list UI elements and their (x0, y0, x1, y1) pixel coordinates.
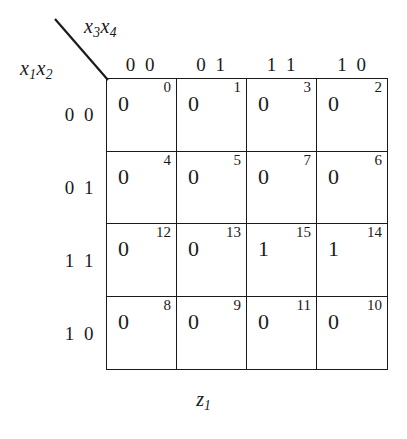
column-header-row: 0 0 0 1 1 1 1 0 (106, 52, 388, 78)
kmap-cell: 10 0 (317, 297, 387, 370)
column-header: 1 0 (318, 52, 389, 78)
kmap-cell: 12 0 (107, 224, 177, 297)
cell-value: 0 (118, 165, 129, 188)
minterm-index: 12 (156, 225, 171, 241)
cell-value: 0 (188, 165, 199, 188)
minterm-index: 3 (304, 80, 312, 96)
minterm-index: 10 (367, 298, 382, 314)
cell-value: 0 (258, 165, 269, 188)
column-axis-label: x3x4 (84, 16, 117, 39)
minterm-index: 14 (367, 225, 382, 241)
column-axis-var1: x (84, 15, 93, 37)
minterm-index: 4 (164, 153, 172, 169)
column-axis-var1-sub: 3 (93, 25, 100, 40)
cell-value: 0 (188, 92, 199, 115)
column-header: 0 0 (106, 52, 177, 78)
cell-value: 0 (258, 92, 269, 115)
column-axis-var2: x (100, 15, 109, 37)
minterm-index: 5 (234, 153, 242, 169)
minterm-index: 2 (375, 80, 383, 96)
kmap-cell: 0 0 (107, 79, 177, 152)
kmap-cell: 11 0 (247, 297, 317, 370)
cell-value: 0 (328, 92, 339, 115)
kmap-cell: 13 0 (177, 224, 247, 297)
minterm-index: 9 (234, 298, 242, 314)
karnaugh-map-figure: x3x4 x1x2 0 0 0 1 1 1 1 0 0 0 0 1 1 1 1 … (0, 0, 407, 439)
kmap-cell: 5 0 (177, 152, 247, 225)
kmap-cell: 3 0 (247, 79, 317, 152)
kmap-cell: 14 1 (317, 224, 387, 297)
minterm-index: 6 (375, 153, 383, 169)
minterm-index: 1 (234, 80, 242, 96)
column-axis-var2-sub: 4 (110, 25, 117, 40)
cell-value: 1 (328, 237, 339, 260)
column-header: 0 1 (177, 52, 248, 78)
row-header: 0 1 (26, 151, 102, 224)
minterm-index: 13 (226, 225, 241, 241)
kmap-cell: 15 1 (247, 224, 317, 297)
caption-subscript: 1 (204, 398, 211, 413)
minterm-index: 15 (296, 225, 311, 241)
row-header: 0 0 (26, 78, 102, 151)
kmap-cell: 6 0 (317, 152, 387, 225)
cell-value: 1 (258, 237, 269, 260)
minterm-index: 11 (297, 298, 311, 314)
minterm-index: 8 (164, 298, 172, 314)
column-header: 1 1 (247, 52, 318, 78)
kmap-cell: 1 0 (177, 79, 247, 152)
kmap-cell: 9 0 (177, 297, 247, 370)
row-axis-var2: x (36, 57, 45, 79)
cell-value: 0 (118, 237, 129, 260)
kmap-cell: 2 0 (317, 79, 387, 152)
kmap-cell: 7 0 (247, 152, 317, 225)
kmap-grid: 0 0 1 0 3 0 2 0 4 0 5 0 7 0 6 0 (106, 78, 388, 370)
kmap-cell: 4 0 (107, 152, 177, 225)
cell-value: 0 (188, 237, 199, 260)
minterm-index: 0 (164, 80, 172, 96)
cell-value: 0 (328, 165, 339, 188)
cell-value: 0 (118, 92, 129, 115)
row-header-column: 0 0 0 1 1 1 1 0 (26, 78, 102, 370)
cell-value: 0 (188, 310, 199, 333)
caption-symbol: z (196, 388, 204, 410)
row-header: 1 0 (26, 297, 102, 370)
cell-value: 0 (258, 310, 269, 333)
row-header: 1 1 (26, 224, 102, 297)
cell-value: 0 (328, 310, 339, 333)
cell-value: 0 (118, 310, 129, 333)
figure-caption: z1 (0, 388, 407, 414)
minterm-index: 7 (304, 153, 312, 169)
kmap-cell: 8 0 (107, 297, 177, 370)
row-axis-var1: x (20, 57, 29, 79)
